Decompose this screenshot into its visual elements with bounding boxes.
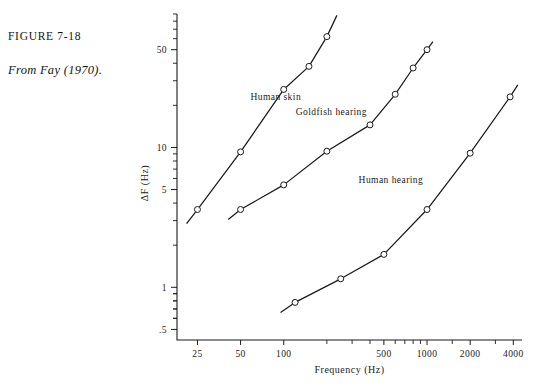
data-point: [306, 63, 312, 69]
y-tick-label: .5: [159, 325, 167, 335]
data-point: [410, 65, 416, 71]
y-tick-label: 10: [157, 143, 167, 153]
x-axis-title: Frequency (Hz): [314, 364, 384, 376]
data-point: [467, 150, 473, 156]
data-point: [424, 47, 430, 53]
y-tick-label: 5: [162, 185, 167, 195]
data-point: [238, 149, 244, 155]
y-tick-label: 1: [162, 283, 167, 293]
x-tick-label: 100: [276, 349, 291, 359]
x-tick-label: 2000: [460, 349, 481, 359]
data-point: [238, 207, 244, 213]
x-tick-label: 1000: [417, 349, 438, 359]
series-line-2: [281, 85, 518, 313]
x-tick-label: 50: [235, 349, 245, 359]
data-point: [194, 207, 200, 213]
series-label-1: Goldfish hearing: [296, 107, 367, 117]
data-point: [381, 251, 387, 257]
series-label-2: Human hearing: [359, 175, 424, 185]
series-line-0: [187, 15, 337, 223]
y-axis-title: ΔF (Hz): [139, 165, 151, 201]
data-point: [367, 122, 373, 128]
data-point: [324, 148, 330, 154]
data-point: [281, 182, 287, 188]
figure-root: FIGURE 7-18 From Fay (1970). .5151050255…: [0, 0, 536, 391]
log-log-chart: .51510502550100500100020004000Frequency …: [0, 0, 536, 391]
data-point: [507, 94, 513, 100]
data-point: [424, 207, 430, 213]
series-line-1: [228, 42, 433, 220]
data-point: [392, 91, 398, 97]
chart-plot-area: .51510502550100500100020004000Frequency …: [0, 0, 536, 391]
y-tick-label: 50: [157, 45, 167, 55]
data-point: [292, 299, 298, 305]
data-point: [324, 34, 330, 40]
axis-lines: [177, 14, 522, 340]
x-tick-label: 500: [376, 349, 391, 359]
data-point: [338, 276, 344, 282]
series-label-0: Human skin: [250, 92, 301, 102]
x-tick-label: 4000: [503, 349, 524, 359]
x-tick-label: 25: [192, 349, 202, 359]
